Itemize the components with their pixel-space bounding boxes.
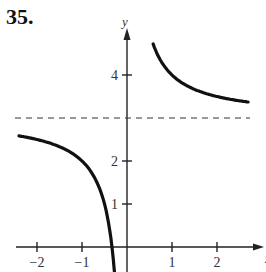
x-axis-label: x <box>264 251 266 266</box>
x-tick-label: 2 <box>214 255 221 270</box>
y-tick-label: 4 <box>111 68 118 83</box>
curves <box>19 44 248 272</box>
y-axis-arrow-icon <box>124 28 131 40</box>
chart: −2−112124yx <box>0 0 266 272</box>
curve-left-branch <box>19 136 114 272</box>
x-tick-label: 1 <box>169 255 176 270</box>
x-axis-arrow-icon <box>253 244 264 251</box>
x-tick-label: −2 <box>30 255 45 270</box>
x-tick-label: −1 <box>75 255 90 270</box>
y-tick-label: 2 <box>111 154 118 169</box>
y-axis-label: y <box>120 14 128 29</box>
labels: −2−112124yx <box>30 14 266 270</box>
curve-right-branch <box>153 44 248 102</box>
y-tick-label: 1 <box>111 197 118 212</box>
axes <box>16 28 264 272</box>
